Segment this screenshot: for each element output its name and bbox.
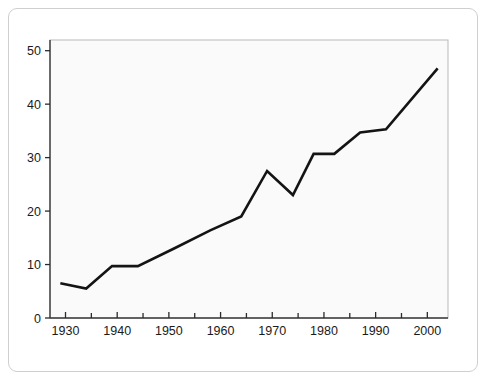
y-axis-tick-labels: 01020304050 bbox=[27, 44, 41, 325]
x-tick-label-1980: 1980 bbox=[310, 324, 338, 338]
x-tick-label-1940: 1940 bbox=[103, 324, 131, 338]
y-axis-ticks bbox=[45, 51, 50, 318]
y-tick-label-0: 0 bbox=[34, 312, 41, 326]
y-tick-label-30: 30 bbox=[27, 151, 41, 165]
x-tick-label-1990: 1990 bbox=[362, 324, 390, 338]
line-chart: 01020304050 1930194019501960197019801990… bbox=[0, 0, 488, 383]
figure-container: 01020304050 1930194019501960197019801990… bbox=[0, 0, 488, 383]
y-tick-label-50: 50 bbox=[27, 44, 41, 58]
plot-background bbox=[50, 40, 448, 318]
x-tick-label-1950: 1950 bbox=[155, 324, 183, 338]
y-tick-label-10: 10 bbox=[27, 258, 41, 272]
chart-svg: 01020304050 1930194019501960197019801990… bbox=[0, 0, 488, 383]
x-tick-label-1960: 1960 bbox=[207, 324, 235, 338]
x-tick-label-1930: 1930 bbox=[52, 324, 80, 338]
x-tick-label-2000: 2000 bbox=[413, 324, 441, 338]
x-tick-label-1970: 1970 bbox=[258, 324, 286, 338]
x-axis-tick-labels: 19301940195019601970198019902000 bbox=[52, 324, 442, 338]
y-tick-label-20: 20 bbox=[27, 205, 41, 219]
y-tick-label-40: 40 bbox=[27, 98, 41, 112]
